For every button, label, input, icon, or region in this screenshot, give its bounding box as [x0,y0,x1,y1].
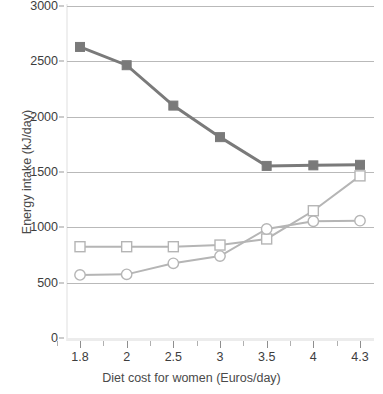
marker-filled-square [309,161,318,170]
x-tick-mark-3 [220,341,221,348]
marker-filled-square [356,160,365,169]
marker-open-circle [168,258,178,268]
marker-filled-square [262,161,271,170]
marker-filled-square [122,61,131,70]
marker-open-circle [75,270,85,280]
y-tick-mark-2000 [59,116,64,117]
marker-open-circle [261,224,271,234]
marker-open-square [355,171,365,181]
x-tick-mark-2.5 [173,341,174,348]
x-tick-mark-minor-1 [150,341,151,346]
x-tick-label-3.5: 3.5 [244,350,290,364]
x-tick-mark-4.3 [360,341,361,348]
y-tick-mark-1000 [59,227,64,228]
series-dark-filled-square-series [76,42,365,170]
x-tick-mark-minor-5 [337,341,338,346]
marker-filled-square [216,133,225,142]
marker-open-square [215,240,225,250]
marker-open-square [75,242,85,252]
marker-open-circle [121,269,131,279]
y-tick-mark-1500 [59,172,64,173]
x-tick-mark-2 [127,341,128,348]
x-tick-mark-4 [313,341,314,348]
x-axis-title: Diet cost for women (Euros/day) [0,371,383,385]
marker-open-square [122,242,132,252]
x-tick-mark-1.8 [80,341,81,348]
marker-filled-square [76,42,85,51]
x-tick-mark-minor-3 [243,341,244,346]
x-tick-mark-3.5 [267,341,268,348]
y-tick-mark-2500 [59,61,64,62]
marker-open-circle [355,215,365,225]
x-tick-mark-minor-0 [103,341,104,346]
x-tick-label-3: 3 [197,350,243,364]
x-tick-label-4: 4 [290,350,336,364]
y-tick-mark-500 [59,282,64,283]
marker-open-square [168,242,178,252]
marker-open-square [262,234,272,244]
energy-intake-line-chart: Energy intake (kJ/day) 30002500200015001… [0,0,383,394]
x-tick-mark-minor-2 [197,341,198,346]
y-tick-mark-0 [59,338,64,339]
x-tick-mark-minor-lead [57,341,58,346]
x-tick-label-2.5: 2.5 [150,350,196,364]
marker-open-square [308,206,318,216]
y-tick-mark-3000 [59,6,64,7]
marker-open-circle [308,216,318,226]
x-tick-mark-minor-4 [290,341,291,346]
marker-filled-square [169,101,178,110]
x-tick-label-2: 2 [104,350,150,364]
x-tick-label-4.3: 4.3 [337,350,383,364]
data-series-layer [0,0,383,394]
marker-open-circle [215,251,225,261]
series-light-open-square-series [75,171,365,252]
x-tick-label-1.8: 1.8 [57,350,103,364]
